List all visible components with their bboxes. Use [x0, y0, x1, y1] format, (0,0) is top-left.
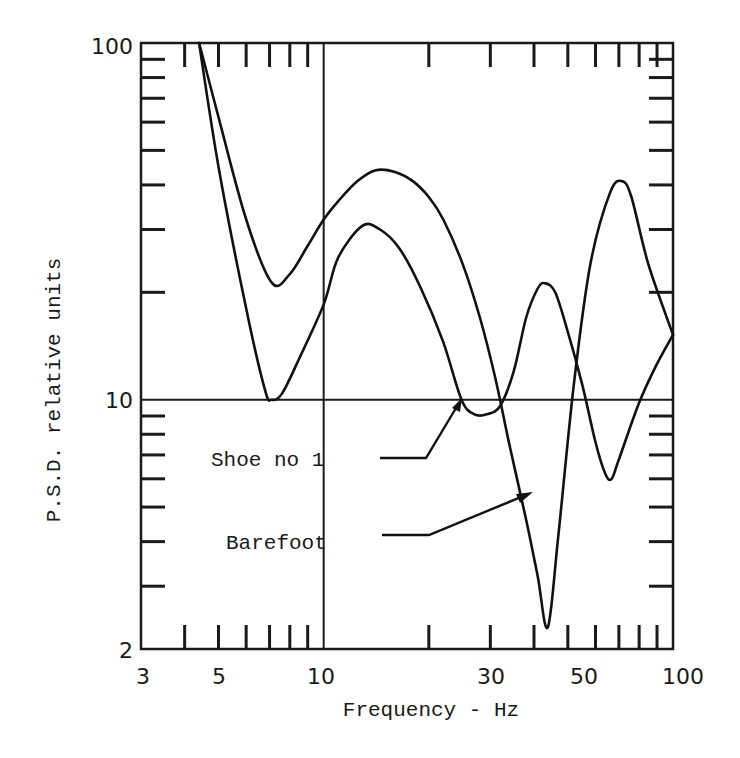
x-tick-label-10: 10	[307, 664, 335, 689]
psd-chart: 100 10 2 3 5 10 30 50 100 Frequency - Hz…	[0, 0, 740, 758]
y-tick-label-100: 100	[91, 34, 133, 59]
x-tick-label-50: 50	[570, 664, 598, 689]
y-tick-label-2: 2	[119, 638, 133, 663]
annotation-shoe-no-1: Shoe no 1	[211, 449, 324, 472]
plot-frame	[141, 43, 673, 649]
barefoot-leader-line	[382, 495, 526, 535]
series-shoe-no-1-line	[199, 43, 673, 480]
x-tick-label-3: 3	[136, 664, 150, 689]
shoe-leader-line	[380, 403, 459, 458]
x-tick-label-30: 30	[477, 664, 505, 689]
barefoot-arrowhead-icon	[516, 492, 533, 503]
x-axis-title: Frequency - Hz	[343, 699, 519, 722]
annotation-barefoot: Barefoot	[226, 532, 327, 555]
y-axis-title: P.S.D. relative units	[43, 258, 66, 523]
x-tick-label-100: 100	[662, 664, 704, 689]
minor-ticks	[141, 43, 673, 649]
y-tick-label-10: 10	[105, 388, 133, 413]
x-tick-label-5: 5	[212, 664, 226, 689]
